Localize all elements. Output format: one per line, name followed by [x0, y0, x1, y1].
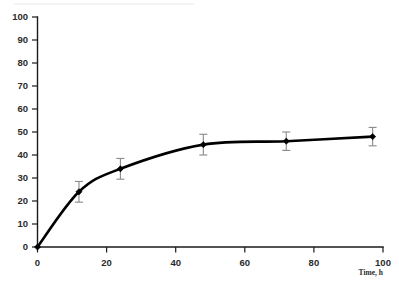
x-tick-label: 40	[170, 257, 181, 268]
data-point-marker	[283, 138, 289, 144]
x-tick-label: 0	[35, 257, 40, 268]
y-axis-tick-labels: 0102030405060708090100	[12, 11, 28, 252]
y-tick-label: 50	[17, 126, 28, 137]
x-axis-tick-labels: 020406080100	[35, 257, 391, 268]
chart-figure: 0102030405060708090100 020406080100 Time…	[0, 0, 399, 288]
y-tick-label: 30	[17, 172, 28, 183]
x-tick-label: 80	[309, 257, 320, 268]
y-tick-label: 40	[17, 149, 28, 160]
y-tick-label: 10	[17, 218, 28, 229]
y-tick-label: 20	[17, 195, 28, 206]
data-point-markers	[34, 134, 375, 251]
x-tick-label: 60	[240, 257, 251, 268]
data-point-marker	[370, 134, 376, 140]
y-tick-label: 70	[17, 80, 28, 91]
x-tick-label: 20	[101, 257, 112, 268]
y-axis-ticks	[32, 17, 38, 247]
y-tick-label: 100	[12, 11, 28, 22]
x-axis-ticks	[38, 247, 384, 253]
data-point-marker	[200, 142, 206, 148]
y-tick-label: 90	[17, 34, 28, 45]
y-tick-label: 60	[17, 103, 28, 114]
chart-plot-area: 0102030405060708090100 020406080100 Time…	[0, 0, 399, 288]
y-tick-label: 80	[17, 57, 28, 68]
x-tick-label: 100	[375, 257, 391, 268]
data-series-curve	[38, 137, 373, 247]
y-tick-label: 0	[23, 241, 28, 252]
x-axis-title: Time, h	[359, 268, 384, 277]
